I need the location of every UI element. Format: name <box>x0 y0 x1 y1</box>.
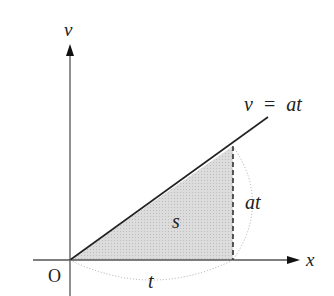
equation-eq: = <box>264 93 275 115</box>
y-axis-arrow-icon <box>66 44 74 56</box>
equation-label: v = at <box>244 93 302 115</box>
equation-at: at <box>286 93 302 115</box>
x-axis-label: x <box>305 249 315 270</box>
x-axis-arrow-icon <box>287 256 300 264</box>
y-axis-label: v <box>64 19 73 40</box>
height-label: at <box>245 191 261 213</box>
base-label: t <box>148 270 154 292</box>
vt-diagram: v x O v = at s at t <box>0 0 334 296</box>
equation-v: v <box>244 93 253 115</box>
diagram-canvas: v x O v = at s at t <box>0 0 334 296</box>
area-label: s <box>172 210 180 232</box>
origin-label: O <box>48 266 61 286</box>
